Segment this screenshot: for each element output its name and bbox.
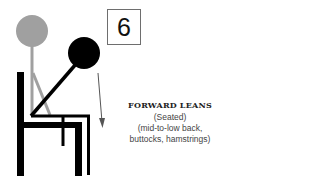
exercise-targets-line2: buttocks, hamstrings)	[122, 134, 218, 145]
exercise-caption: FORWARD LEANS (Seated) (mid-to-low back,…	[122, 100, 218, 145]
exercise-targets-line1: (mid-to-low back,	[122, 123, 218, 134]
down-arrow-icon	[98, 73, 105, 128]
exercise-position: (Seated)	[122, 112, 218, 123]
step-number: 6	[117, 15, 131, 40]
exercise-title: FORWARD LEANS	[122, 100, 218, 110]
step-number-box: 6	[107, 9, 141, 45]
